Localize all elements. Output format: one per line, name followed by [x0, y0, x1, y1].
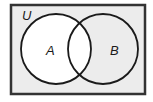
universe-label: U [22, 8, 32, 23]
set-b-label: B [110, 43, 119, 58]
set-a-label: A [45, 43, 55, 58]
venn-diagram: U A B [0, 0, 153, 102]
